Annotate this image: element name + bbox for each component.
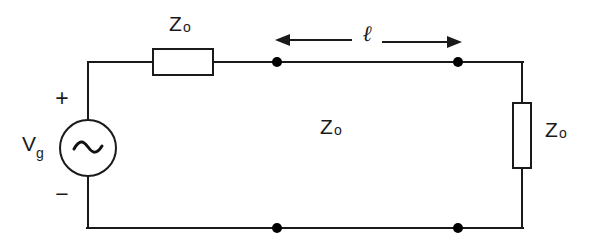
line-impedance-label: Z [320,115,333,138]
source-label-subscript: g [36,145,44,161]
node-dot-bottom-left [272,223,282,233]
node-dot-bottom-right [453,223,463,233]
dimension-arrowhead-right-icon [447,36,462,48]
load-impedance-label: Z [545,118,558,141]
line-impedance-label-subscript: o [334,122,342,138]
dimension-arrowhead-left-icon [275,34,290,46]
circuit-diagram: Z o Z o Z o V g + − ℓ [0,0,590,250]
node-dot-top-left [272,57,282,67]
polarity-minus-label: − [55,181,68,207]
series-impedance-label-subscript: o [183,19,191,35]
load-impedance-label-subscript: o [559,125,567,141]
load-impedance-box [513,103,531,168]
node-dot-top-right [453,57,463,67]
source-label: V [22,132,36,155]
length-label: ℓ [362,21,372,46]
series-impedance-box [153,49,213,75]
series-impedance-label: Z [169,12,182,35]
polarity-plus-label: + [55,85,68,111]
circuit-canvas: Z o Z o Z o V g + − ℓ [0,0,590,250]
